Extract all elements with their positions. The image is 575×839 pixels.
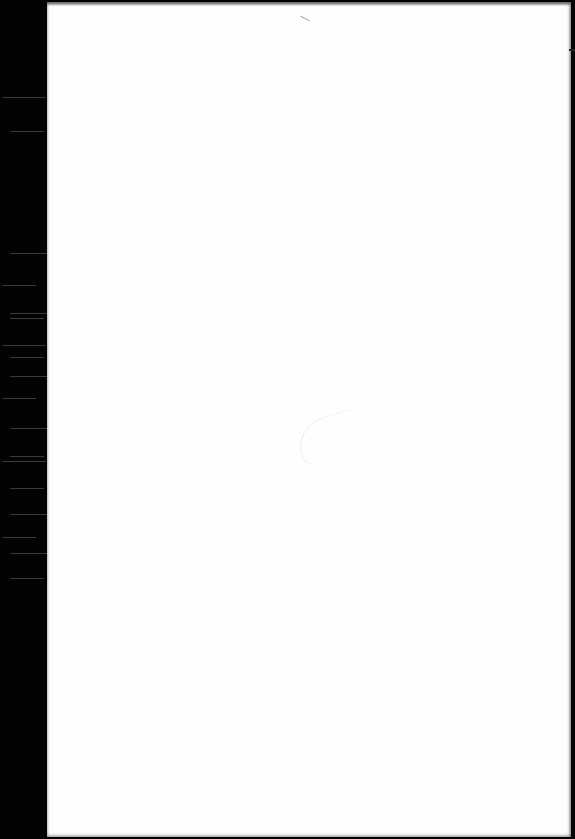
binding-edge-line — [10, 376, 47, 377]
binding-edge-line — [10, 578, 44, 579]
binding-edge-line — [10, 318, 44, 319]
binding-edge-line — [10, 131, 44, 132]
binding-edge-line — [10, 253, 47, 254]
binding-edge-line — [10, 553, 47, 554]
binding-edge-line — [10, 313, 47, 314]
binding-edge-line — [10, 428, 47, 429]
book-binding-strip — [0, 0, 47, 839]
binding-edge-line — [10, 514, 47, 515]
scan-artifact-dash — [300, 16, 309, 22]
binding-edge-line — [2, 97, 46, 98]
binding-edge-line — [2, 461, 46, 462]
binding-edge-line — [10, 357, 44, 358]
show-through-mark — [292, 409, 363, 467]
binding-edge-line — [2, 285, 36, 286]
page-top-shadow — [47, 2, 571, 6]
binding-edge-line — [10, 456, 44, 457]
binding-edge-line — [2, 537, 36, 538]
scanned-page-frame — [0, 0, 575, 839]
binding-edge-line — [2, 398, 36, 399]
scan-right-edge — [571, 0, 575, 839]
blank-page — [47, 2, 571, 837]
binding-edge-line — [10, 488, 44, 489]
binding-edge-line — [2, 345, 46, 346]
